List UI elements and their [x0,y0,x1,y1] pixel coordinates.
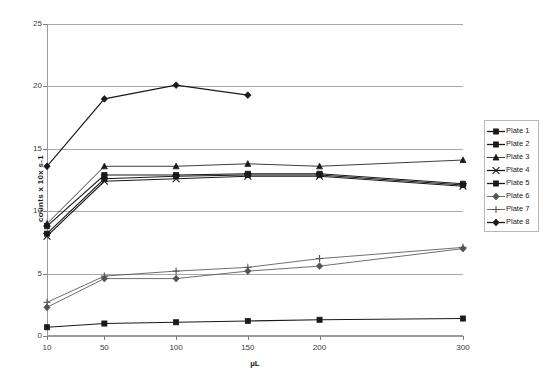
series-layer [0,0,543,380]
data-point-marker [316,255,323,262]
legend-item-plate-7[interactable]: Plate 7 [487,202,536,215]
data-point-marker [492,181,500,186]
legend-label: Plate 4 [505,165,529,174]
data-point-marker [316,263,322,270]
data-point-marker [173,268,180,275]
data-point-marker [43,299,50,306]
series-plate-7 [43,244,466,306]
legend-label: Plate 2 [505,139,529,148]
legend-swatch [487,124,505,137]
legend-item-plate-4[interactable]: Plate 4 [487,163,536,176]
data-point-marker [173,82,179,89]
series-plate-4 [44,173,467,240]
legend-swatch [487,137,505,150]
legend: Plate 1Plate 2Plate 3Plate 4Plate 5Plate… [484,120,539,232]
legend-label: Plate 8 [505,217,529,226]
data-point-marker [102,321,107,326]
legend-item-plate-8[interactable]: Plate 8 [487,215,536,228]
data-point-marker [492,129,500,134]
data-point-marker [245,92,251,99]
data-point-marker [172,172,180,177]
data-point-marker [317,317,322,322]
data-point-marker [460,316,465,321]
legend-label: Plate 5 [505,178,529,187]
legend-item-plate-5[interactable]: Plate 5 [487,176,536,189]
data-point-marker [245,318,250,323]
legend-swatch [487,189,505,202]
data-point-marker [244,171,252,176]
chart-container: 2520151050 1050100150200300 counts x 10x… [0,0,543,380]
legend-item-plate-2[interactable]: Plate 2 [487,137,536,150]
legend-item-plate-6[interactable]: Plate 6 [487,189,536,202]
legend-label: Plate 6 [505,191,529,200]
legend-item-plate-3[interactable]: Plate 3 [487,150,536,163]
data-point-marker [43,224,51,229]
legend-marker-icon [487,216,505,229]
legend-swatch [487,163,505,176]
data-point-marker [493,142,498,147]
data-point-marker [316,171,324,176]
legend-swatch [487,150,505,163]
legend-label: Plate 7 [505,204,529,213]
legend-swatch [487,202,505,215]
data-point-marker [493,219,499,226]
data-point-marker [174,320,179,325]
data-point-marker [493,193,499,200]
data-point-marker [101,172,109,177]
legend-item-plate-1[interactable]: Plate 1 [487,124,536,137]
series-plate-8 [44,82,251,170]
series-plate-2 [44,316,465,330]
data-point-marker [459,181,467,186]
data-point-marker [173,275,179,282]
legend-label: Plate 3 [505,152,529,161]
series-plate-3 [44,157,466,226]
data-point-marker [459,244,466,251]
legend-swatch [487,176,505,189]
legend-label: Plate 1 [505,126,529,135]
data-point-marker [492,206,499,213]
series-plate-6 [44,245,466,310]
data-point-marker [44,325,49,330]
legend-swatch [487,215,505,228]
